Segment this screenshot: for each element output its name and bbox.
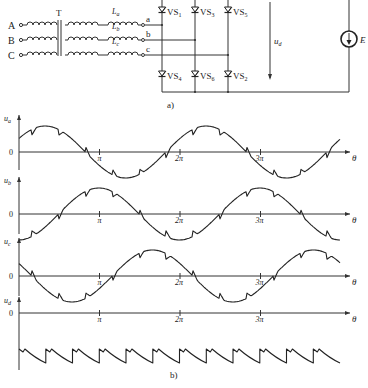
coil-icon bbox=[27, 22, 57, 25]
junction-dot bbox=[194, 91, 196, 93]
zero-label: 0 bbox=[9, 210, 13, 219]
y-arrow-icon bbox=[17, 297, 21, 302]
zero-label: 0 bbox=[9, 309, 13, 318]
x-tick-label: 3π bbox=[255, 315, 265, 324]
coil-icon bbox=[27, 52, 57, 55]
node-b-terminal-icon bbox=[142, 39, 145, 42]
inductor-b-label: Lb bbox=[111, 22, 119, 32]
y-arrow-icon bbox=[17, 238, 21, 243]
phase-inputs: A B C bbox=[8, 20, 23, 61]
coil-icon bbox=[68, 52, 98, 55]
x-tick-label: 3π bbox=[255, 216, 265, 225]
x-arrow-icon bbox=[345, 274, 350, 278]
terminal-c-icon bbox=[19, 53, 22, 56]
x-tick-label: π bbox=[98, 315, 103, 324]
x-arrow-icon bbox=[345, 311, 350, 315]
thyristor-vs2-label: VS2 bbox=[233, 71, 248, 82]
caption-b: b) bbox=[170, 370, 178, 380]
input-b-label: B bbox=[8, 35, 15, 46]
y-arrow-icon bbox=[17, 177, 21, 182]
y-axis-label: ud bbox=[4, 296, 12, 306]
terminal-b-icon bbox=[19, 38, 22, 41]
plot-ub: ub0θπ2π3π bbox=[4, 176, 357, 240]
zero-label: 0 bbox=[9, 148, 13, 157]
waveform-plots: ua0θπ2π3πub0θπ2π3πuc0θπ2π3πud0θπ2π3π bbox=[4, 114, 357, 370]
transformer-label: T bbox=[56, 8, 62, 18]
coil-icon bbox=[68, 37, 98, 40]
y-arrow-icon bbox=[17, 115, 21, 120]
inductor-a-label: La bbox=[111, 7, 119, 17]
thyristor-icon bbox=[192, 71, 200, 77]
x-arrow-icon bbox=[345, 212, 350, 216]
node-a-terminal-icon bbox=[142, 24, 145, 27]
theta-label: θ bbox=[352, 277, 357, 287]
source-e-label: E bbox=[359, 35, 366, 45]
theta-label: θ bbox=[352, 314, 357, 324]
plot-uc: uc0θπ2π3π bbox=[4, 237, 357, 302]
ud-arrowhead-icon bbox=[268, 74, 272, 80]
thyristor-vs5-label: VS5 bbox=[233, 7, 248, 18]
inductor-c-label: Lc bbox=[111, 37, 119, 47]
caption-a: a) bbox=[167, 100, 174, 110]
dc-source-arrowhead-icon bbox=[347, 40, 352, 45]
coil-icon bbox=[108, 52, 138, 55]
thyristor-vs4-label: VS4 bbox=[167, 71, 182, 82]
rectifier-figure: A B C T La Lb Lc a b c bbox=[0, 0, 368, 388]
thyristor-icon bbox=[225, 7, 233, 13]
plot-ua: ua0θπ2π3π bbox=[4, 114, 357, 178]
trace-ud bbox=[19, 349, 340, 363]
y-axis-label: uc bbox=[4, 237, 11, 247]
plot-ud: ud0θπ2π3π bbox=[4, 296, 357, 370]
coil-icon bbox=[27, 37, 57, 40]
node-b-label: b bbox=[146, 29, 151, 39]
thyristor-vs3-label: VS3 bbox=[200, 7, 215, 18]
thyristor-icon bbox=[159, 71, 167, 77]
x-tick-label: π bbox=[98, 154, 103, 163]
thyristor-icon bbox=[192, 7, 200, 13]
circuit-diagram: A B C T La Lb Lc a b c bbox=[8, 0, 366, 110]
x-tick-label: 2π bbox=[175, 315, 184, 324]
thyristor-vs1-label: VS1 bbox=[167, 7, 182, 18]
theta-label: θ bbox=[352, 215, 357, 225]
y-axis-label: ua bbox=[4, 114, 11, 124]
coil-icon bbox=[68, 22, 98, 25]
x-tick-label: 2π bbox=[175, 216, 184, 225]
x-tick-label: π bbox=[98, 216, 103, 225]
input-c-label: C bbox=[8, 50, 15, 61]
junction-dot bbox=[227, 91, 229, 93]
terminal-a-icon bbox=[19, 23, 22, 26]
transformer-coils bbox=[23, 22, 141, 55]
thyristor-icon bbox=[225, 71, 233, 77]
theta-label: θ bbox=[352, 153, 357, 163]
thyristor-icon bbox=[159, 7, 167, 13]
node-a-label: a bbox=[146, 14, 150, 24]
x-arrow-icon bbox=[345, 150, 350, 154]
zero-label: 0 bbox=[9, 272, 13, 281]
node-c-label: c bbox=[146, 44, 150, 54]
x-tick-label: 2π bbox=[175, 278, 184, 287]
thyristor-vs6-label: VS6 bbox=[200, 71, 215, 82]
ud-label: ud bbox=[274, 36, 283, 47]
y-axis-label: ub bbox=[4, 176, 11, 186]
input-a-label: A bbox=[8, 20, 16, 31]
node-c-terminal-icon bbox=[142, 54, 145, 57]
x-tick-label: 2π bbox=[175, 154, 184, 163]
